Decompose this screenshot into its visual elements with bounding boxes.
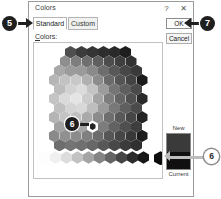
callout-badge-6-hexagon: 6 — [65, 117, 79, 131]
callout-6b-tail — [168, 156, 206, 162]
colors-field-label: Colors: — [35, 33, 57, 40]
gray-ramp-swatch[interactable] — [116, 151, 127, 163]
cancel-button[interactable]: Cancel — [166, 33, 192, 44]
gray-ramp-swatch[interactable] — [127, 151, 138, 163]
dialog-titlebar: Colors ? ✕ — [29, 2, 193, 17]
tab-custom[interactable]: Custom — [68, 17, 98, 30]
black-swatch[interactable] — [154, 151, 163, 165]
callout-badge-7: 7 — [200, 16, 215, 31]
color-hexagon-panel[interactable] — [33, 42, 163, 179]
tab-standard[interactable]: Standard — [33, 17, 67, 30]
hex-selection-indicator — [90, 123, 96, 130]
hexagon-grid[interactable] — [34, 43, 162, 178]
callout-5-arrowhead — [26, 18, 33, 28]
close-icon[interactable]: ✕ — [177, 3, 190, 15]
preview-new-swatch — [167, 134, 190, 152]
gray-ramp-swatch[interactable] — [61, 151, 72, 163]
colors-dialog: Colors ? ✕ Standard Custom Colors: OK Ca… — [28, 1, 194, 197]
gray-ramp-swatch[interactable] — [105, 151, 116, 163]
question-mark-icon[interactable]: ? — [160, 3, 173, 15]
new-color-label: New — [166, 125, 191, 131]
gray-ramp-swatch[interactable] — [138, 151, 149, 163]
dialog-title: Colors — [35, 4, 56, 11]
current-color-label: Current — [164, 171, 193, 177]
gray-ramp-swatch[interactable] — [39, 151, 50, 163]
gray-ramp-swatch[interactable] — [72, 151, 83, 163]
gray-ramp-swatch[interactable] — [83, 151, 94, 163]
callout-badge-5: 5 — [2, 16, 17, 31]
callout-badge-6-preview: 6 — [204, 149, 219, 164]
colors-label-rest: olors: — [40, 33, 57, 40]
callout-7-arrowhead — [184, 18, 191, 28]
gray-ramp-swatch[interactable] — [50, 151, 61, 163]
gray-ramp-swatch[interactable] — [94, 151, 105, 163]
